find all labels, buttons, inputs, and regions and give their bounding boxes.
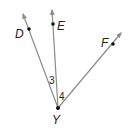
label-f: F: [101, 36, 109, 50]
angle-4-label: 4: [59, 91, 65, 102]
label-e: E: [57, 19, 66, 33]
angle-3-label: 3: [49, 75, 55, 86]
label-y: Y: [52, 113, 61, 127]
point-y: [56, 106, 60, 110]
label-d: D: [15, 27, 24, 41]
point-e: [51, 22, 55, 26]
ray-diagram: D E F Y 3 4: [0, 0, 131, 128]
point-f: [111, 42, 115, 46]
point-d: [27, 27, 31, 31]
